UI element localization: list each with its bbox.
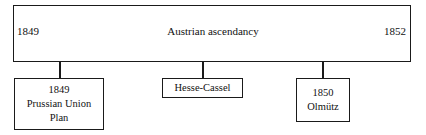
connector-line-prussian-union-plan <box>59 62 61 78</box>
period-end-year: 1852 <box>0 25 406 38</box>
event-label-line: Hesse-Cassel <box>175 81 231 95</box>
event-label-line: 1849 <box>49 83 70 97</box>
event-label-line: Plan <box>50 111 69 125</box>
connector-line-olmutz <box>322 62 324 78</box>
event-box-prussian-union-plan: 1849 Prussian Union Plan <box>14 78 104 130</box>
event-box-olmutz: 1850 Olmütz <box>296 78 350 122</box>
timeline-diagram: 1849 Austrian ascendancy 1852 1849 Pruss… <box>0 0 426 135</box>
connector-line-hesse-cassel <box>202 62 204 78</box>
event-label-line: Olmütz <box>307 100 339 114</box>
event-box-hesse-cassel: Hesse-Cassel <box>162 78 243 98</box>
event-label-line: 1850 <box>313 86 334 100</box>
event-label-line: Prussian Union <box>27 97 91 111</box>
